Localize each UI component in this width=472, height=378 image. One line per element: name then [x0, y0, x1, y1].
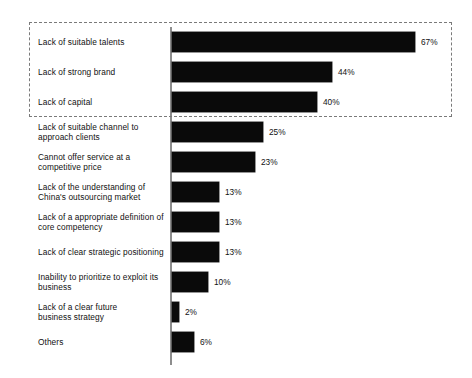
- bar-and-value: 13%: [172, 182, 242, 202]
- category-label-line: Lack of a appropriate definition of: [38, 212, 166, 223]
- bar-and-value: 6%: [172, 332, 212, 352]
- category-label: Others: [38, 327, 166, 357]
- bar: [172, 242, 219, 262]
- bar-value-label: 23%: [261, 157, 278, 167]
- category-label-line: Lack of suitable talents: [38, 37, 166, 48]
- bar: [172, 92, 317, 112]
- category-label-line: Cannot offer service at a: [38, 152, 166, 163]
- category-label: Lack of clear strategic positioning: [38, 237, 166, 267]
- bar-row: Lack of clear strategic positioning13%: [0, 237, 472, 267]
- category-label: Cannot offer service at acompetitive pri…: [38, 147, 166, 177]
- category-label-line: Lack of strong brand: [38, 67, 166, 78]
- bar-value-label: 10%: [214, 277, 231, 287]
- category-label: Lack of capital: [38, 87, 166, 117]
- bar-value-label: 13%: [225, 187, 242, 197]
- bar: [172, 182, 219, 202]
- bar-value-label: 13%: [225, 217, 242, 227]
- category-label-line: business strategy: [38, 312, 166, 323]
- category-label-line: Lack of capital: [38, 97, 166, 108]
- category-label: Inability to prioritize to exploit itsbu…: [38, 267, 166, 297]
- bar: [172, 332, 194, 352]
- category-label-line: China's outsourcing market: [38, 192, 166, 203]
- bar-rows-container: Lack of suitable talents67%Lack of stron…: [0, 0, 472, 378]
- category-label-line: competitive price: [38, 162, 166, 173]
- bar-chart: Lack of suitable talents67%Lack of stron…: [0, 0, 472, 378]
- bar-and-value: 10%: [172, 272, 231, 292]
- bar-row: Lack of a clear futurebusiness strategy2…: [0, 297, 472, 327]
- bar-row: Lack of suitable channel toapproach clie…: [0, 117, 472, 147]
- category-label: Lack of suitable channel toapproach clie…: [38, 117, 166, 147]
- bar-row: Inability to prioritize to exploit itsbu…: [0, 267, 472, 297]
- bar-value-label: 2%: [185, 307, 197, 317]
- category-label: Lack of a clear futurebusiness strategy: [38, 297, 166, 327]
- category-label-line: Lack of the understanding of: [38, 182, 166, 193]
- category-label-line: Lack of suitable channel to: [38, 122, 166, 133]
- category-label: Lack of a appropriate definition ofcore …: [38, 207, 166, 237]
- bar-row: Lack of capital40%: [0, 87, 472, 117]
- bar-value-label: 44%: [338, 67, 355, 77]
- bar-and-value: 2%: [172, 302, 197, 322]
- category-label-line: approach clients: [38, 132, 166, 143]
- category-label: Lack of suitable talents: [38, 27, 166, 57]
- bar: [172, 122, 263, 142]
- bar-value-label: 40%: [323, 97, 340, 107]
- bar-and-value: 67%: [172, 32, 438, 52]
- category-label-line: core competency: [38, 222, 166, 233]
- bar-and-value: 23%: [172, 152, 278, 172]
- bar-value-label: 67%: [421, 37, 438, 47]
- category-label-line: Inability to prioritize to exploit its: [38, 272, 166, 283]
- bar-row: Lack of strong brand44%: [0, 57, 472, 87]
- category-label-line: Others: [38, 337, 166, 348]
- category-label-line: business: [38, 282, 166, 293]
- bar-row: Lack of suitable talents67%: [0, 27, 472, 57]
- bar: [172, 272, 208, 292]
- bar-value-label: 6%: [200, 337, 212, 347]
- bar: [172, 62, 332, 82]
- bar-row: Lack of the understanding ofChina's outs…: [0, 177, 472, 207]
- bar: [172, 212, 219, 232]
- bar-row: Lack of a appropriate definition ofcore …: [0, 207, 472, 237]
- bar: [172, 32, 415, 52]
- bar-and-value: 13%: [172, 212, 242, 232]
- bar-value-label: 13%: [225, 247, 242, 257]
- category-label: Lack of the understanding ofChina's outs…: [38, 177, 166, 207]
- bar-and-value: 44%: [172, 62, 355, 82]
- category-label: Lack of strong brand: [38, 57, 166, 87]
- bar-row: Others6%: [0, 327, 472, 357]
- bar: [172, 152, 255, 172]
- category-label-line: Lack of a clear future: [38, 302, 166, 313]
- bar-row: Cannot offer service at acompetitive pri…: [0, 147, 472, 177]
- category-label-line: Lack of clear strategic positioning: [38, 247, 166, 258]
- bar-and-value: 40%: [172, 92, 340, 112]
- bar: [172, 302, 179, 322]
- bar-value-label: 25%: [269, 127, 286, 137]
- bar-and-value: 25%: [172, 122, 286, 142]
- bar-and-value: 13%: [172, 242, 242, 262]
